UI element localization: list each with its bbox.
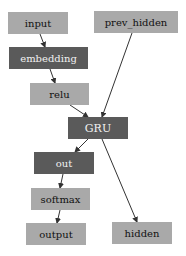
node-relu: relu xyxy=(30,83,89,105)
edge-out-softmax xyxy=(60,174,63,188)
edge-embedding-relu xyxy=(50,69,55,83)
edge-prevhidden-gru xyxy=(102,33,132,117)
node-prev-hidden-label: prev_hidden xyxy=(105,17,168,28)
node-softmax-label: softmax xyxy=(41,194,81,205)
edge-input-embedding xyxy=(40,34,45,47)
node-hidden: hidden xyxy=(112,222,172,244)
node-input-label: input xyxy=(25,18,52,29)
edge-softmax-output xyxy=(57,210,60,223)
node-prev-hidden: prev_hidden xyxy=(94,11,178,33)
edge-gru-out xyxy=(75,139,88,152)
node-output-label: output xyxy=(39,229,72,240)
node-out-label: out xyxy=(56,158,72,169)
node-embedding-label: embedding xyxy=(20,53,77,64)
node-hidden-label: hidden xyxy=(125,228,160,239)
node-embedding: embedding xyxy=(9,47,88,69)
node-relu-label: relu xyxy=(49,89,69,100)
node-out: out xyxy=(34,152,94,174)
edge-relu-gru xyxy=(70,105,88,117)
node-gru: GRU xyxy=(68,117,128,139)
node-softmax: softmax xyxy=(31,188,90,210)
node-output: output xyxy=(26,223,86,245)
edge-gru-hidden xyxy=(102,139,137,222)
node-input: input xyxy=(8,12,68,34)
node-gru-label: GRU xyxy=(85,122,111,135)
